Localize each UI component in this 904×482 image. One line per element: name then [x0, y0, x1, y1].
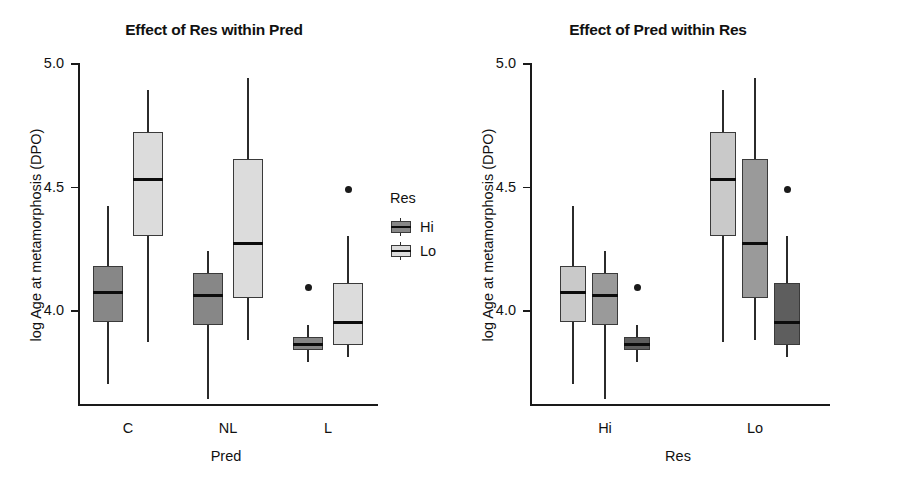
x-tick-label: C: [88, 420, 168, 436]
x-tick-label: Lo: [715, 420, 795, 436]
outlier-point: [784, 186, 791, 193]
legend-left: Res HiLo: [390, 190, 436, 263]
x-axis-label-left: Pred: [78, 448, 374, 464]
legend-item-label: Lo: [420, 243, 436, 259]
y-tick-label: 4.0: [456, 303, 516, 318]
legend-swatch-icon: [390, 242, 412, 260]
boxplot-Lo-L: [78, 55, 378, 405]
whisker-lower: [786, 345, 787, 357]
y-tick-label: 4.5: [4, 180, 64, 195]
y-tick-mark: [523, 187, 530, 189]
whisker-lower: [347, 345, 348, 357]
y-tick-label: 4.0: [4, 303, 64, 318]
chart-panel-right: Effect of Pred within Res log Age at met…: [452, 0, 904, 482]
page-title-left: Effect of Res within Pred: [0, 21, 440, 39]
box-iqr: [774, 283, 800, 345]
y-axis-label-left: log Age at metamorphosis (DPO): [28, 70, 54, 400]
box-iqr: [333, 283, 363, 345]
legend-title-left: Res: [390, 190, 436, 206]
plot-area-right: 5.04.54.0HiLo: [530, 55, 830, 405]
y-tick-mark: [523, 310, 530, 312]
legend-item-Lo[interactable]: Lo: [390, 239, 436, 263]
x-tick-label: L: [288, 420, 368, 436]
y-tick-mark: [71, 63, 78, 65]
boxplot-L-Lo: [530, 55, 830, 405]
x-tick-label: NL: [188, 420, 268, 436]
figure-root: Effect of Res within Pred log Age at met…: [0, 0, 904, 482]
y-tick-mark: [71, 310, 78, 312]
whisker-upper: [786, 236, 787, 283]
y-tick-label: 4.5: [456, 180, 516, 195]
y-tick-label: 5.0: [4, 56, 64, 71]
y-tick-label: 5.0: [456, 56, 516, 71]
x-axis-label-right: Res: [530, 448, 826, 464]
page-title-right: Effect of Pred within Res: [432, 21, 884, 39]
y-tick-mark: [523, 63, 530, 65]
y-tick-mark: [71, 187, 78, 189]
chart-panel-left: Effect of Res within Pred log Age at met…: [0, 0, 452, 482]
plot-area-left: 5.04.54.0CNLL: [78, 55, 378, 405]
whisker-upper: [347, 236, 348, 283]
median-line: [774, 321, 800, 324]
outlier-point: [345, 186, 352, 193]
legend-item-Hi[interactable]: Hi: [390, 215, 436, 239]
legend-item-label: Hi: [420, 219, 434, 235]
x-tick-label: Hi: [565, 420, 645, 436]
y-axis-label-right: log Age at metamorphosis (DPO): [480, 70, 506, 400]
legend-swatch-icon: [390, 218, 412, 236]
legend-entries-left: HiLo: [390, 215, 436, 263]
median-line: [333, 321, 363, 324]
